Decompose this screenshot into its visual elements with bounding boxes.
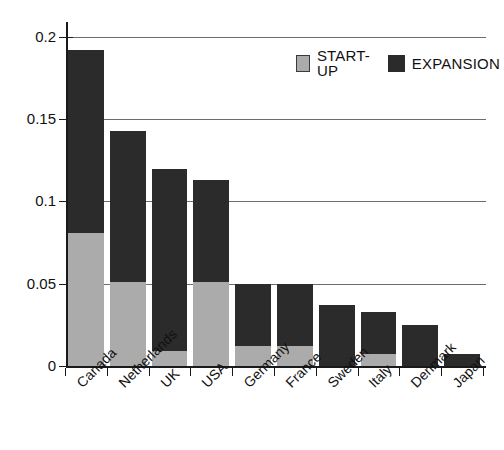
x-tick-germany [232, 368, 233, 376]
bar-expansion-usa[interactable] [193, 180, 229, 282]
legend-item-expansion[interactable]: EXPANSION [388, 55, 500, 72]
y-axis-label-0.05: 0.05 [0, 276, 56, 291]
y-axis-label-0.2: 0.2 [0, 29, 56, 44]
y-axis-label-0.15: 0.15 [0, 111, 56, 126]
x-tick-sweden [316, 368, 317, 376]
bar-expansion-france[interactable] [277, 284, 313, 347]
y-axis-label-0: 0 [0, 358, 56, 373]
legend-swatch-expansion-icon [388, 55, 405, 72]
legend-item-startup[interactable]: START-UP [296, 48, 376, 78]
bar-expansion-uk[interactable] [152, 169, 188, 352]
x-tick-usa [190, 368, 191, 376]
x-tick-canada [65, 368, 66, 376]
y-axis-label-0.1: 0.1 [0, 193, 56, 208]
legend-swatch-startup-icon [296, 55, 310, 72]
x-axis-label-uk: UK [158, 366, 182, 390]
bar-expansion-germany[interactable] [235, 284, 271, 347]
bar-expansion-netherlands[interactable] [110, 131, 146, 282]
y-tick-0.2 [59, 37, 73, 38]
gridline-0.15 [66, 119, 486, 120]
legend-label-startup: START-UP [317, 48, 376, 78]
x-tick-japan [441, 368, 442, 376]
gridline-0.2 [66, 37, 486, 38]
chart-legend: START-UP EXPANSION [292, 46, 504, 80]
bar-startup-usa[interactable] [193, 282, 229, 366]
x-tick-france [274, 368, 275, 376]
bar-expansion-italy[interactable] [361, 312, 397, 355]
x-tick-denmark [399, 368, 400, 376]
bar-expansion-canada[interactable] [68, 50, 104, 233]
bar-startup-canada[interactable] [68, 233, 104, 366]
x-tick-netherlands [107, 368, 108, 376]
x-tick-uk [149, 368, 150, 376]
legend-label-expansion: EXPANSION [412, 56, 500, 71]
y-tick-0 [59, 366, 73, 367]
x-tick-end [483, 368, 484, 376]
x-tick-italy [358, 368, 359, 376]
bar-chart: 0.2 0.15 0.1 0.05 0 CanadaNetherlandsUKU… [0, 0, 504, 450]
